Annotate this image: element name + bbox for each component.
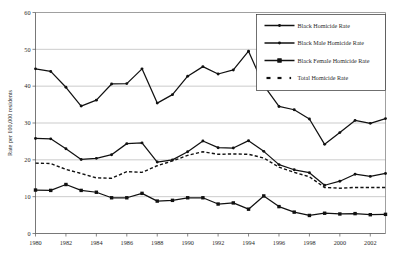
data-point-1988	[156, 102, 159, 105]
y-tick-label-20: 20	[24, 156, 30, 163]
x-tick-label-1994: 1994	[242, 239, 254, 246]
data-point-1987	[141, 141, 144, 144]
data-point-2003	[384, 213, 387, 216]
data-point-1986	[125, 82, 128, 85]
data-point-1997	[292, 210, 295, 213]
data-point-1997	[293, 168, 296, 171]
data-point-2001	[353, 212, 356, 215]
x-tick-label-1982: 1982	[60, 239, 72, 246]
x-tick-label-1998: 1998	[303, 239, 315, 246]
x-tick-label-1996: 1996	[273, 239, 285, 246]
data-point-1982	[64, 183, 67, 186]
data-point-1995	[262, 194, 265, 197]
x-tick-label-2000: 2000	[334, 239, 346, 246]
data-point-1992	[217, 146, 220, 149]
legend-marker	[278, 42, 281, 45]
data-point-1980	[34, 67, 37, 70]
data-point-1990	[186, 150, 189, 153]
data-point-2002	[369, 213, 372, 216]
legend-marker	[278, 24, 281, 27]
data-point-1986	[125, 196, 128, 199]
data-point-1985	[110, 153, 113, 156]
data-point-1981	[49, 137, 52, 140]
data-point-1985	[110, 196, 113, 199]
legend-label: Total Homicide Rate	[298, 75, 349, 81]
data-point-1989	[171, 93, 174, 96]
data-point-1992	[216, 202, 219, 205]
data-point-1993	[232, 147, 235, 150]
data-point-1980	[34, 188, 37, 191]
data-point-1998	[308, 117, 311, 120]
data-point-1990	[186, 196, 189, 199]
x-tick-label-2002: 2002	[364, 239, 376, 246]
data-point-1998	[308, 171, 311, 174]
data-point-1984	[95, 99, 98, 102]
y-tick-label-30: 30	[24, 119, 30, 126]
data-point-1983	[80, 105, 83, 108]
data-point-2003	[384, 117, 387, 120]
data-point-1999	[323, 143, 326, 146]
data-point-1999	[323, 212, 326, 215]
data-point-1985	[110, 83, 113, 86]
data-point-2001	[354, 119, 357, 122]
data-point-1980	[34, 137, 37, 140]
data-point-2000	[338, 212, 341, 215]
data-point-1998	[308, 214, 311, 217]
data-point-1991	[201, 140, 204, 143]
data-point-1981	[49, 189, 52, 192]
y-tick-label-50: 50	[24, 46, 30, 53]
data-point-2003	[384, 172, 387, 175]
y-tick-label-10: 10	[24, 193, 30, 200]
data-point-1993	[232, 201, 235, 204]
x-tick-label-1990: 1990	[181, 239, 193, 246]
data-point-1987	[141, 67, 144, 70]
data-point-1981	[49, 70, 52, 73]
y-axis-title: Rate per 100,000 residents	[6, 89, 13, 156]
data-point-1988	[156, 199, 159, 202]
data-point-1991	[201, 65, 204, 68]
data-point-2001	[354, 173, 357, 176]
y-tick-label-40: 40	[24, 82, 30, 89]
data-point-1994	[247, 207, 250, 210]
x-tick-label-1984: 1984	[90, 239, 102, 246]
x-tick-label-1992: 1992	[212, 239, 224, 246]
data-point-1996	[277, 205, 280, 208]
y-axis-title-text: Rate per 100,000 residents	[6, 89, 13, 156]
data-point-1989	[171, 199, 174, 202]
chart-canvas: 0102030405060 19801982198419861988199019…	[0, 0, 396, 264]
y-tick-label-60: 60	[24, 9, 30, 16]
data-point-1990	[186, 75, 189, 78]
y-tick-label-0: 0	[27, 230, 30, 237]
data-point-2002	[369, 122, 372, 125]
homicide-rate-line-chart: 0102030405060 19801982198419861988199019…	[0, 0, 396, 264]
data-point-1996	[278, 105, 281, 108]
legend-label: Black Female Homicide Rate	[298, 58, 370, 64]
data-point-2000	[338, 180, 341, 183]
data-point-1996	[278, 163, 281, 166]
legend-marker	[277, 58, 281, 62]
data-point-1988	[156, 161, 159, 164]
data-point-2002	[369, 175, 372, 178]
data-point-1994	[247, 50, 250, 53]
data-point-1991	[201, 196, 204, 199]
data-point-1992	[217, 73, 220, 76]
data-point-1983	[80, 158, 83, 161]
data-point-1995	[262, 150, 265, 153]
x-tick-label-1988: 1988	[151, 239, 163, 246]
data-point-2000	[338, 131, 341, 134]
x-tick-label-1986: 1986	[121, 239, 133, 246]
legend-label: Black Homicide Rate	[298, 23, 351, 29]
data-point-1994	[247, 139, 250, 142]
data-point-1993	[232, 69, 235, 72]
data-point-1987	[140, 192, 143, 195]
data-point-1982	[64, 86, 67, 89]
legend-label: Black Male Homicide Rate	[298, 40, 365, 46]
data-point-1986	[125, 142, 128, 145]
data-point-1983	[79, 189, 82, 192]
data-point-1997	[293, 108, 296, 111]
x-tick-label-1980: 1980	[29, 239, 41, 246]
data-point-1984	[95, 191, 98, 194]
data-point-1982	[64, 147, 67, 150]
chart-legend: Black Homicide RateBlack Male Homicide R…	[257, 15, 386, 91]
data-point-1984	[95, 157, 98, 160]
